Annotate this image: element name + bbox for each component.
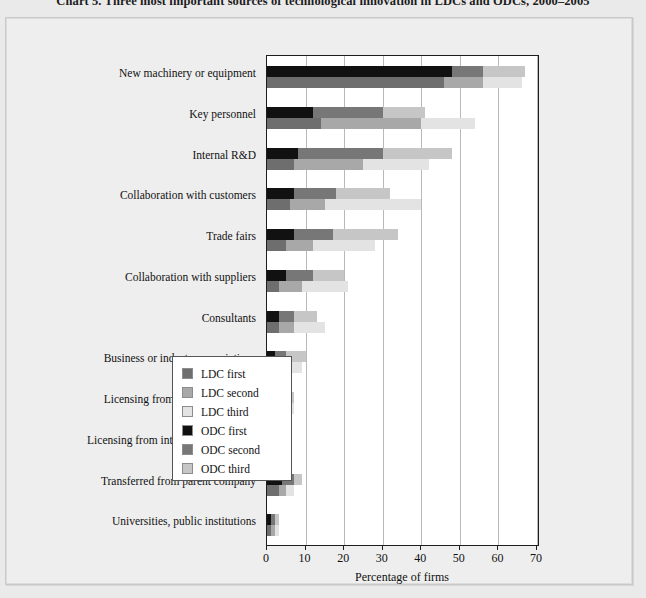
bar-segment bbox=[294, 159, 363, 170]
legend-label: LDC third bbox=[201, 406, 249, 418]
bar-segment bbox=[279, 281, 302, 292]
x-tick-label: 10 bbox=[299, 551, 311, 566]
bar-segment bbox=[267, 148, 298, 159]
bar-segment bbox=[444, 77, 483, 88]
chart-panel: New machinery or equipmentKey personnelI… bbox=[5, 17, 633, 585]
bar-segment bbox=[275, 525, 279, 536]
bar-ldc bbox=[267, 485, 294, 496]
bar-segment bbox=[267, 77, 444, 88]
x-tick-label: 0 bbox=[263, 551, 269, 566]
bar-odc bbox=[267, 188, 390, 199]
legend-swatch bbox=[182, 463, 193, 474]
bar-row bbox=[267, 464, 537, 505]
legend-label: ODC second bbox=[201, 444, 260, 456]
bar-segment bbox=[325, 199, 421, 210]
x-tick-label: 40 bbox=[414, 551, 426, 566]
bar-row bbox=[267, 178, 537, 219]
bar-row bbox=[267, 301, 537, 342]
bar-ldc bbox=[267, 118, 475, 129]
bar-segment bbox=[267, 240, 286, 251]
chart-title: Chart 5. Three most important sources of… bbox=[0, 0, 646, 9]
legend: LDC firstLDC secondLDC thirdODC firstODC… bbox=[172, 356, 292, 481]
bar-segment bbox=[267, 281, 279, 292]
x-tick-label: 60 bbox=[491, 551, 503, 566]
x-tick bbox=[382, 545, 383, 550]
bar-segment bbox=[275, 514, 279, 525]
bar-ldc bbox=[267, 199, 421, 210]
category-label: Internal R&D bbox=[192, 149, 256, 161]
bar-segment bbox=[483, 66, 525, 77]
bar-odc bbox=[267, 148, 452, 159]
legend-item[interactable]: ODC third bbox=[182, 459, 291, 478]
bar-row bbox=[267, 56, 537, 97]
bar-odc bbox=[267, 514, 279, 525]
legend-label: LDC second bbox=[201, 387, 259, 399]
bar-segment bbox=[279, 311, 294, 322]
bar-segment bbox=[267, 270, 286, 281]
x-tick-label: 70 bbox=[530, 551, 542, 566]
bar-ldc bbox=[267, 159, 429, 170]
bar-segment bbox=[267, 322, 279, 333]
bar-row bbox=[267, 260, 537, 301]
x-tick-label: 50 bbox=[453, 551, 465, 566]
bar-ldc bbox=[267, 525, 279, 536]
bar-segment bbox=[298, 148, 383, 159]
x-tick bbox=[343, 545, 344, 550]
x-tick-label: 20 bbox=[337, 551, 349, 566]
legend-label: ODC first bbox=[201, 425, 247, 437]
bar-segment bbox=[290, 199, 325, 210]
bar-row bbox=[267, 504, 537, 545]
bar-segment bbox=[383, 107, 425, 118]
bar-segment bbox=[279, 485, 287, 496]
chart-page: Chart 5. Three most important sources of… bbox=[0, 0, 646, 598]
bar-segment bbox=[421, 118, 475, 129]
bar-segment bbox=[267, 66, 452, 77]
bar-segment bbox=[452, 66, 483, 77]
bar-ldc bbox=[267, 281, 348, 292]
bar-segment bbox=[294, 322, 325, 333]
bar-segment bbox=[333, 229, 399, 240]
legend-swatch bbox=[182, 444, 193, 455]
bar-segment bbox=[286, 270, 313, 281]
legend-label: LDC first bbox=[201, 368, 245, 380]
bar-ldc bbox=[267, 77, 522, 88]
legend-swatch bbox=[182, 406, 193, 417]
bar-segment bbox=[267, 199, 290, 210]
bar-segment bbox=[363, 159, 429, 170]
category-label: Collaboration with suppliers bbox=[125, 271, 256, 283]
bar-segment bbox=[279, 322, 294, 333]
x-tick bbox=[536, 545, 537, 550]
category-label: Trade fairs bbox=[206, 230, 256, 242]
bar-row bbox=[267, 341, 537, 382]
legend-swatch bbox=[182, 425, 193, 436]
x-tick-label: 30 bbox=[376, 551, 388, 566]
bar-segment bbox=[321, 118, 421, 129]
bar-segment bbox=[336, 188, 390, 199]
bar-odc bbox=[267, 229, 398, 240]
bar-segment bbox=[302, 281, 348, 292]
category-label: Key personnel bbox=[189, 108, 256, 120]
legend-item[interactable]: LDC second bbox=[182, 383, 291, 402]
bar-segment bbox=[313, 270, 344, 281]
category-label: Consultants bbox=[202, 312, 256, 324]
legend-item[interactable]: ODC second bbox=[182, 440, 291, 459]
category-label: Collaboration with customers bbox=[120, 189, 256, 201]
legend-item[interactable]: LDC third bbox=[182, 402, 291, 421]
bar-segment bbox=[267, 107, 313, 118]
bar-odc bbox=[267, 311, 317, 322]
legend-item[interactable]: ODC first bbox=[182, 421, 291, 440]
category-label: New machinery or equipment bbox=[119, 67, 256, 79]
bar-ldc bbox=[267, 322, 325, 333]
bar-rows bbox=[267, 56, 537, 545]
legend-item[interactable]: LDC first bbox=[182, 364, 291, 383]
bar-segment bbox=[294, 229, 333, 240]
x-axis-title: Percentage of firms bbox=[266, 570, 538, 585]
category-label: Universities, public institutions bbox=[112, 515, 256, 527]
bar-segment bbox=[294, 311, 317, 322]
bar-segment bbox=[286, 485, 294, 496]
bar-segment bbox=[267, 159, 294, 170]
bar-segment bbox=[267, 311, 279, 322]
bar-segment bbox=[294, 474, 302, 485]
bar-segment bbox=[383, 148, 452, 159]
bar-segment bbox=[267, 118, 321, 129]
